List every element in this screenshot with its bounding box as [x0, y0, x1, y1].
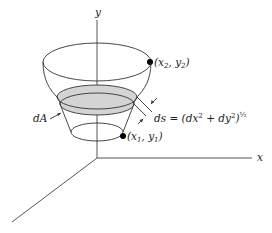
surface-area-diagram: y x (x2, y2) (x1, y1) dA ds = (dx2 + dy2… — [0, 0, 272, 233]
ds-extension-lower — [134, 104, 146, 116]
point-lower-dot — [120, 133, 126, 139]
point-lower-label: (x1, y1) — [127, 130, 163, 144]
area-element-label: dA — [33, 112, 48, 124]
arc-length-formula: ds = (dx2 + dy2)½ — [154, 111, 247, 124]
z-axis — [12, 158, 97, 222]
point-upper-label: (x2, y2) — [154, 56, 190, 70]
x-axis-label: x — [257, 151, 263, 163]
y-axis-label: y — [94, 6, 102, 18]
point-upper-dot — [147, 59, 153, 65]
